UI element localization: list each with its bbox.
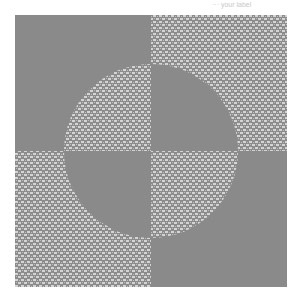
illusion-figure <box>0 0 298 298</box>
